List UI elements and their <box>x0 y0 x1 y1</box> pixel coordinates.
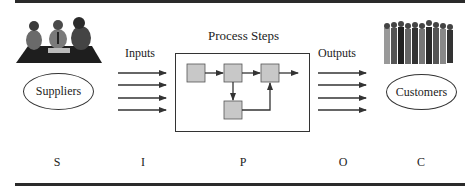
input-arrows <box>118 73 166 110</box>
inputs-label: Inputs <box>125 46 155 61</box>
acronym-s: S <box>54 155 61 170</box>
acronym-c: C <box>417 155 425 170</box>
meeting-clipart-icon <box>16 17 102 63</box>
output-arrows <box>318 73 366 110</box>
crowd-clipart-icon <box>384 20 453 64</box>
customers-node: Customers <box>386 74 457 110</box>
acronym-i: I <box>141 155 145 170</box>
suppliers-node: Suppliers <box>23 73 94 110</box>
process-flows <box>205 73 298 110</box>
acronym-o: O <box>339 155 348 170</box>
outputs-label: Outputs <box>318 46 356 61</box>
acronym-p: P <box>240 155 247 170</box>
customers-label: Customers <box>396 85 447 100</box>
process-steps-title: Process Steps <box>208 28 279 44</box>
suppliers-label: Suppliers <box>36 84 81 99</box>
bottom-rule <box>15 183 465 186</box>
